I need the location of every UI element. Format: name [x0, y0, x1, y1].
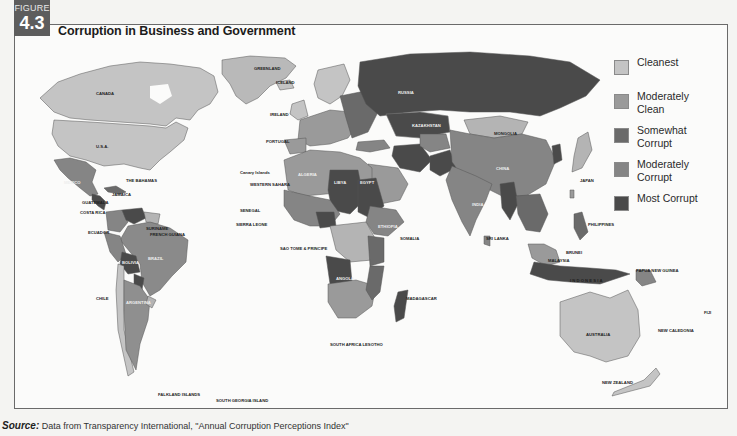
label-senegal: SENEGAL: [240, 208, 261, 213]
label-sierra-leone: SIERRA LEONE: [236, 222, 267, 227]
label-ecuador: ECUADOR: [88, 230, 109, 235]
source-note: Source: Data from Transparency Internati…: [2, 420, 349, 431]
map-legend: Cleanest Moderately Clean Somewhat Corru…: [614, 56, 724, 226]
label-western-sahara: WESTERN SAHARA: [250, 182, 290, 187]
label-suriname: SURINAME: [146, 226, 169, 231]
label-philippines: PHILIPPINES: [588, 222, 614, 227]
legend-label: Somewhat Corrupt: [637, 124, 717, 150]
label-australia: AUSTRALIA: [586, 332, 610, 337]
label-brazil: BRAZIL: [148, 256, 164, 261]
label-malaysia: MALAYSIA: [548, 258, 569, 263]
figure-number: 4.3: [14, 14, 50, 32]
label-fiji: FIJI: [704, 310, 711, 315]
label-japan: JAPAN: [580, 178, 594, 183]
figure-badge: FIGURE 4.3: [14, 0, 50, 36]
legend-item-moderately-corrupt: Moderately Corrupt: [614, 158, 724, 192]
region-turkey: [356, 140, 390, 152]
region-mexico: [54, 158, 98, 196]
label-bolivia: BOLIVIA: [122, 260, 139, 265]
region-canada: [40, 62, 218, 126]
label-indonesia: I N D O N E S I A: [570, 278, 602, 283]
label-mongolia: MONGOLIA: [494, 131, 517, 136]
region-madagascar: [394, 290, 408, 322]
label-canary-islands: Canary Islands: [240, 170, 270, 175]
label-madagascar: MADAGASCAR: [406, 296, 437, 301]
label-mexico: MEXICO: [64, 180, 81, 185]
region-guianas: [144, 212, 160, 224]
label-china: CHINA: [496, 166, 509, 171]
label-chile: CHILE: [96, 296, 109, 301]
label-brunei: BRUNEI: [566, 250, 582, 255]
label-iceland: ICELAND: [276, 80, 295, 85]
label-bahamas: THE BAHAMAS: [126, 178, 157, 183]
region-east-africa: [368, 236, 384, 266]
region-philippines: [574, 212, 588, 240]
swatch-somewhat-corrupt: [614, 128, 629, 143]
label-south-georgia: SOUTH GEORGIA ISLAND: [216, 398, 268, 403]
label-papua: PAPUA NEW GUINEA: [636, 268, 679, 273]
legend-item-most-corrupt: Most Corrupt: [614, 192, 724, 226]
label-new-zealand: NEW ZEALAND: [602, 380, 633, 385]
swatch-moderately-clean: [614, 94, 629, 109]
label-ethiopia: ETHIOPIA: [378, 224, 398, 229]
legend-label: Moderately Clean: [637, 90, 717, 116]
label-sao-tome: SAO TOME & PRINCIPE: [280, 246, 328, 251]
label-ireland: IRELAND: [270, 112, 289, 117]
region-australia: [560, 290, 640, 362]
region-indochina: [516, 194, 548, 232]
label-sri-lanka: SRI LANKA: [486, 236, 509, 241]
label-portugal: PORTUGAL: [266, 139, 290, 144]
region-horn-of-africa: [366, 206, 404, 236]
legend-label: Most Corrupt: [637, 192, 717, 205]
legend-label: Cleanest: [637, 56, 717, 69]
label-russia: RUSSIA: [398, 90, 414, 95]
region-japan: [572, 132, 592, 172]
swatch-cleanest: [614, 60, 629, 75]
swatch-most-corrupt: [614, 196, 629, 211]
label-costa-rica: COSTA RICA: [80, 210, 106, 215]
legend-item-cleanest: Cleanest: [614, 56, 724, 90]
label-guatemala: GUATEMALA: [82, 200, 108, 205]
label-jamaica: JAMAICA: [112, 192, 131, 197]
label-canada: CANADA: [96, 91, 114, 96]
region-mozambique: [366, 266, 384, 300]
label-argentina: ARGENTINA: [126, 300, 151, 305]
label-greenland: GREENLAND: [254, 66, 281, 71]
label-egypt: EGYPT: [360, 180, 375, 185]
label-new-caledonia: NEW CALEDONIA: [658, 328, 694, 333]
legend-item-moderately-clean: Moderately Clean: [614, 90, 724, 124]
label-french-guiana: FRENCH GUIANA: [150, 232, 185, 237]
label-usa: U.S.A.: [96, 144, 108, 149]
label-algeria: ALGERIA: [298, 172, 317, 177]
label-somalia: SOMALIA: [400, 236, 419, 241]
source-label: Source:: [2, 420, 39, 431]
label-angola: ANGOLA: [336, 276, 354, 281]
label-india: INDIA: [472, 202, 483, 207]
region-korea: [552, 144, 562, 164]
source-text: Data from Transparency International, "A…: [42, 421, 349, 431]
region-central-asia: [420, 134, 450, 152]
figure-label: FIGURE: [14, 0, 50, 14]
label-falklands: FALKLAND ISLANDS: [158, 392, 200, 397]
region-russia: [358, 52, 600, 116]
legend-item-somewhat-corrupt: Somewhat Corrupt: [614, 124, 724, 158]
region-taiwan: [570, 190, 574, 198]
label-libya: LIBYA: [334, 180, 346, 185]
label-kazakhstan: KAZAKHSTAN: [412, 123, 441, 128]
swatch-moderately-corrupt: [614, 162, 629, 177]
legend-label: Moderately Corrupt: [637, 158, 717, 184]
figure-title: Corruption in Business and Government: [58, 24, 295, 38]
region-uk-ireland: [290, 100, 308, 120]
label-south-africa: SOUTH AFRICA LESOTHO: [330, 342, 383, 347]
